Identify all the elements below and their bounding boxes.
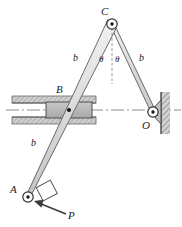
link-co bbox=[108, 20, 158, 115]
label-p: P bbox=[67, 209, 75, 221]
label-length-b-left: b bbox=[73, 52, 78, 63]
label-a: A bbox=[9, 183, 17, 195]
label-length-b-lower: b bbox=[31, 137, 36, 148]
pin-c-dot bbox=[110, 22, 113, 25]
label-c: C bbox=[101, 5, 109, 17]
label-theta-left: θ bbox=[99, 54, 104, 64]
force-p-shaft bbox=[40, 204, 66, 215]
pin-o-dot bbox=[151, 110, 154, 113]
pin-joint-a bbox=[23, 192, 33, 202]
label-length-b-right: b bbox=[139, 52, 144, 63]
end-block-a-body bbox=[36, 180, 57, 201]
link-co-body bbox=[108, 20, 158, 115]
label-b-point: B bbox=[56, 83, 63, 95]
end-block-a bbox=[36, 180, 57, 201]
label-o: O bbox=[142, 119, 150, 131]
figure-canvas: C B O A P b b b θ θ bbox=[0, 0, 182, 227]
pin-a-dot bbox=[26, 195, 29, 198]
mechanism-figure: C B O A P b b b θ θ bbox=[0, 0, 182, 227]
pin-joint-o bbox=[148, 107, 158, 117]
pin-joint-c bbox=[107, 19, 117, 29]
wall-hatch bbox=[161, 92, 170, 134]
force-p-head bbox=[35, 200, 44, 207]
force-arrow-p bbox=[35, 200, 67, 214]
label-theta-right: θ bbox=[115, 54, 120, 64]
pin-b-dot bbox=[67, 108, 71, 112]
